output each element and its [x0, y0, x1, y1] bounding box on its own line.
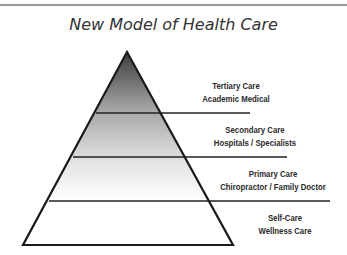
tier-subtitle: Academic Medical	[195, 92, 277, 105]
tier-title: Self-Care	[248, 211, 322, 224]
tier-label-tertiary: Tertiary Care Academic Medical	[195, 79, 277, 105]
tier-title: Secondary Care	[206, 123, 304, 136]
tier-subtitle: Chiropractor / Family Doctor	[216, 180, 331, 193]
tier-title: Primary Care	[216, 167, 331, 180]
tier-label-secondary: Secondary Care Hospitals / Specialists	[206, 123, 304, 149]
tier-subtitle: Wellness Care	[248, 224, 322, 237]
tier-title: Tertiary Care	[195, 79, 277, 92]
tier-label-self-care: Self-Care Wellness Care	[248, 211, 322, 237]
tier-subtitle: Hospitals / Specialists	[206, 136, 304, 149]
tier-label-primary: Primary Care Chiropractor / Family Docto…	[216, 167, 331, 193]
